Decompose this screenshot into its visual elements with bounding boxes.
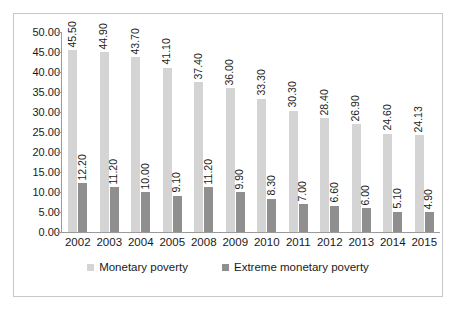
bar-monetary-poverty-2012[interactable] [320, 118, 329, 232]
bar-value-label: 45.50 [66, 21, 77, 47]
x-axis-tick-label-2013: 2013 [346, 237, 378, 249]
bar-extreme-monetary-poverty-2009[interactable] [236, 192, 245, 232]
bar-extreme-monetary-poverty-2004[interactable] [141, 192, 150, 232]
y-axis-tick-label: 10.00 [16, 187, 60, 198]
bar-value-label: 11.20 [108, 159, 119, 185]
y-axis-tick-mark [57, 112, 62, 113]
legend-swatch-icon [87, 264, 94, 271]
bar-value-label: 24.60 [381, 104, 392, 130]
bar-monetary-poverty-2003[interactable] [100, 52, 109, 232]
bar-monetary-poverty-2015[interactable] [415, 135, 424, 232]
x-axis-line [61, 232, 440, 233]
y-axis-tick-label: 20.00 [16, 147, 60, 158]
bar-value-label: 9.90 [234, 169, 245, 189]
chart-legend: Monetary povertyExtreme monetary poverty [14, 262, 442, 274]
chart-plot-wrapper: 0.005.0010.0015.0020.0025.0030.0035.0040… [14, 14, 442, 296]
x-axis-tick-label-2003: 2003 [94, 237, 126, 249]
x-axis-tick-label-2014: 2014 [377, 237, 409, 249]
y-axis-tick-mark [57, 212, 62, 213]
bar-value-label: 4.90 [423, 189, 434, 209]
y-axis-tick-label: 5.00 [16, 207, 60, 218]
bar-extreme-monetary-poverty-2013[interactable] [362, 208, 371, 232]
y-axis-tick-label: 25.00 [16, 127, 60, 138]
y-axis-tick-mark [57, 52, 62, 53]
bar-value-label: 5.10 [391, 188, 402, 208]
bar-value-label: 37.40 [192, 53, 203, 79]
bar-value-label: 26.90 [350, 95, 361, 121]
y-axis-tick-mark [57, 192, 62, 193]
bar-monetary-poverty-2004[interactable] [131, 57, 140, 232]
bar-value-label: 10.00 [139, 163, 150, 189]
bar-value-label: 44.90 [98, 23, 109, 49]
x-axis-tick-label-2009: 2009 [220, 237, 252, 249]
chart-frame: 0.005.0010.0015.0020.0025.0030.0035.0040… [13, 13, 443, 297]
bar-value-label: 12.20 [76, 154, 87, 180]
y-axis-tick-mark [57, 152, 62, 153]
bar-extreme-monetary-poverty-2002[interactable] [78, 183, 87, 232]
x-axis-tick-labels: 2002200320042005200820092010201120122013… [62, 235, 440, 253]
bar-value-label: 11.20 [202, 159, 213, 185]
bar-extreme-monetary-poverty-2015[interactable] [425, 212, 434, 232]
x-axis-tick-label-2015: 2015 [409, 237, 441, 249]
x-axis-tick-label-2002: 2002 [62, 237, 94, 249]
y-axis-tick-label: 45.00 [16, 47, 60, 58]
bar-extreme-monetary-poverty-2012[interactable] [330, 206, 339, 232]
bar-monetary-poverty-2008[interactable] [194, 82, 203, 232]
bar-value-label: 6.60 [328, 182, 339, 202]
bar-monetary-poverty-2002[interactable] [68, 50, 77, 232]
y-axis-tick-labels: 0.005.0010.0015.0020.0025.0030.0035.0040… [16, 32, 60, 232]
bar-value-label: 6.00 [360, 185, 371, 205]
x-axis-tick-label-2012: 2012 [314, 237, 346, 249]
y-axis-tick-mark [57, 92, 62, 93]
bar-extreme-monetary-poverty-2003[interactable] [110, 187, 119, 232]
x-axis-tick-label-2005: 2005 [157, 237, 189, 249]
bar-value-label: 30.30 [287, 82, 298, 108]
bar-value-label: 41.10 [161, 38, 172, 64]
bar-value-label: 7.00 [297, 181, 308, 201]
legend-item-1[interactable]: Extreme monetary poverty [222, 262, 369, 274]
x-axis-tick-label-2004: 2004 [125, 237, 157, 249]
bar-monetary-poverty-2014[interactable] [383, 134, 392, 232]
bar-extreme-monetary-poverty-2014[interactable] [393, 212, 402, 232]
y-axis-tick-label: 15.00 [16, 167, 60, 178]
y-axis-tick-label: 30.00 [16, 107, 60, 118]
y-axis-tick-mark [57, 72, 62, 73]
legend-swatch-icon [222, 264, 229, 271]
bar-monetary-poverty-2010[interactable] [257, 99, 266, 232]
y-axis-tick-mark [57, 32, 62, 33]
bar-monetary-poverty-2005[interactable] [163, 68, 172, 232]
bar-value-label: 9.10 [171, 172, 182, 192]
bar-extreme-monetary-poverty-2008[interactable] [204, 187, 213, 232]
bar-extreme-monetary-poverty-2005[interactable] [173, 196, 182, 232]
legend-label: Monetary poverty [99, 262, 188, 274]
bar-value-label: 28.40 [318, 89, 329, 115]
bar-value-label: 33.30 [255, 70, 266, 96]
legend-item-0[interactable]: Monetary poverty [87, 262, 188, 274]
bar-value-label: 36.00 [224, 59, 235, 85]
y-axis-tick-label: 40.00 [16, 67, 60, 78]
bars-plot-area: 45.5012.2044.9011.2043.7010.0041.109.103… [62, 32, 440, 232]
y-axis-tick-label: 0.00 [16, 227, 60, 238]
bar-extreme-monetary-poverty-2011[interactable] [299, 204, 308, 232]
bar-monetary-poverty-2013[interactable] [352, 124, 361, 232]
bar-value-label: 43.70 [129, 28, 140, 54]
y-axis-tick-label: 50.00 [16, 27, 60, 38]
bar-monetary-poverty-2011[interactable] [289, 111, 298, 232]
y-axis-tick-mark [57, 232, 62, 233]
bar-extreme-monetary-poverty-2010[interactable] [267, 199, 276, 232]
bar-value-label: 24.13 [413, 106, 424, 132]
legend-label: Extreme monetary poverty [234, 262, 369, 274]
y-axis-tick-mark [57, 132, 62, 133]
y-axis-tick-mark [57, 172, 62, 173]
x-axis-tick-label-2010: 2010 [251, 237, 283, 249]
y-axis-tick-label: 35.00 [16, 87, 60, 98]
bar-monetary-poverty-2009[interactable] [226, 88, 235, 232]
bar-value-label: 8.30 [265, 175, 276, 195]
x-axis-tick-label-2008: 2008 [188, 237, 220, 249]
x-axis-tick-label-2011: 2011 [283, 237, 315, 249]
